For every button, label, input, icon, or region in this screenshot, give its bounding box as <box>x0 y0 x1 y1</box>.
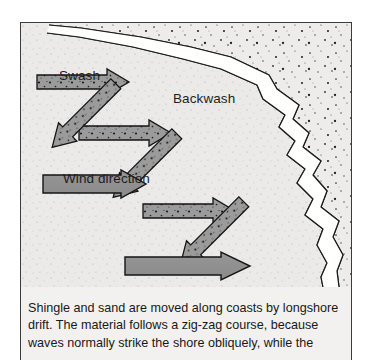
caption-line: Shingle and sand are moved along coasts … <box>28 300 340 317</box>
caption-line: waves normally strike the shore obliquel… <box>28 335 340 352</box>
diagram-artwork <box>21 23 351 287</box>
figure-caption: Shingle and sand are moved along coasts … <box>28 300 340 352</box>
label-wind-direction: Wind direction <box>63 171 150 186</box>
caption-line: drift. The material follows a zig-zag co… <box>28 317 340 334</box>
figure-stage: Swash Backwash Wind direction Shingle an… <box>0 0 368 360</box>
label-swash: Swash <box>59 68 100 83</box>
longshore-drift-diagram: Swash Backwash Wind direction <box>21 23 351 287</box>
label-backwash: Backwash <box>173 91 235 106</box>
